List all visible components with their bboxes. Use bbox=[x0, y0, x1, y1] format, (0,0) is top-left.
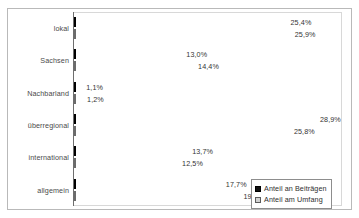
legend-entry[interactable]: Anteil an Beiträgen bbox=[255, 183, 327, 194]
legend-label: Anteil am Umfang bbox=[264, 195, 323, 204]
bar-row: 25,9% bbox=[74, 29, 292, 39]
bar-row: 25,4% bbox=[74, 17, 288, 27]
bar-umfang[interactable] bbox=[74, 29, 76, 39]
chart-legend: Anteil an BeiträgenAnteil am Umfang bbox=[251, 179, 332, 209]
bar-value-label: 1,1% bbox=[83, 82, 103, 91]
category-group: Sachsen13,0%14,4% bbox=[8, 44, 351, 76]
category-group: Nachbarland1,1%1,2% bbox=[8, 77, 351, 109]
bar-row: 13,0% bbox=[74, 49, 183, 59]
bar-beitraege[interactable] bbox=[74, 82, 76, 92]
category-label: Sachsen bbox=[40, 56, 69, 65]
chart-frame: lokal25,4%25,9%Sachsen13,0%14,4%Nachbarl… bbox=[7, 8, 352, 210]
bar-row: 25,8% bbox=[74, 126, 291, 136]
category-label: lokal bbox=[54, 24, 69, 33]
bar-value-label: 13,0% bbox=[183, 50, 207, 59]
bar-value-label: 25,8% bbox=[291, 127, 315, 136]
bar-value-label: 25,4% bbox=[288, 18, 312, 27]
bar-beitraege[interactable] bbox=[74, 146, 76, 156]
category-label: international bbox=[29, 153, 69, 162]
bar-row: 13,7% bbox=[74, 146, 189, 156]
bar-value-label: 14,4% bbox=[195, 62, 219, 71]
bar-umfang[interactable] bbox=[74, 158, 76, 168]
bar-beitraege[interactable] bbox=[74, 49, 76, 59]
bar-row: 12,5% bbox=[74, 158, 179, 168]
bar-row: 17,7% bbox=[74, 179, 223, 189]
bar-row: 28,9% bbox=[74, 114, 317, 124]
category-label: allgemein bbox=[37, 185, 69, 194]
legend-entry[interactable]: Anteil am Umfang bbox=[255, 194, 327, 205]
category-group: überregional28,9%25,8% bbox=[8, 109, 351, 141]
bar-value-label: 25,9% bbox=[292, 30, 316, 39]
bar-row: 14,4% bbox=[74, 61, 195, 71]
legend-swatch-icon bbox=[255, 186, 261, 192]
bar-value-label: 17,7% bbox=[223, 179, 247, 188]
bar-beitraege[interactable] bbox=[74, 179, 76, 189]
bar-umfang[interactable] bbox=[74, 94, 76, 104]
bar-beitraege[interactable] bbox=[74, 114, 76, 124]
category-group: lokal25,4%25,9% bbox=[8, 12, 351, 44]
bar-row: 1,1% bbox=[74, 82, 83, 92]
bar-row: 1,2% bbox=[74, 94, 84, 104]
bar-umfang[interactable] bbox=[74, 61, 76, 71]
bar-row: 19,8% bbox=[74, 191, 240, 201]
bar-value-label: 28,9% bbox=[317, 115, 341, 124]
bar-umfang[interactable] bbox=[74, 191, 76, 201]
bar-value-label: 13,7% bbox=[189, 147, 213, 156]
bar-value-label: 1,2% bbox=[84, 94, 104, 103]
category-group: international13,7%12,5% bbox=[8, 141, 351, 173]
category-label: überregional bbox=[28, 121, 69, 130]
bar-umfang[interactable] bbox=[74, 126, 76, 136]
bar-beitraege[interactable] bbox=[74, 17, 76, 27]
legend-swatch-icon bbox=[255, 197, 261, 203]
bar-value-label: 12,5% bbox=[179, 159, 203, 168]
category-label: Nachbarland bbox=[27, 88, 69, 97]
legend-label: Anteil an Beiträgen bbox=[264, 184, 327, 193]
